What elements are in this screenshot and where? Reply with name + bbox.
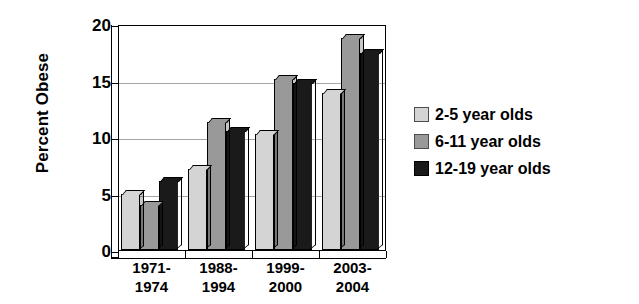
bar-group xyxy=(253,26,320,250)
bars-layer xyxy=(119,26,385,250)
x-tick-mark xyxy=(319,251,320,258)
bar xyxy=(322,93,341,250)
y-axis-title: Percent Obese xyxy=(33,18,53,208)
x-tick-label-line: 2004 xyxy=(311,277,395,296)
x-tick-label-line: 2003- xyxy=(311,258,395,277)
bar-group xyxy=(320,26,387,250)
y-tick-mark xyxy=(112,83,118,84)
obesity-bar-chart: Percent Obese 05101520 1971-19741988-199… xyxy=(0,0,639,304)
y-tick-mark xyxy=(112,26,118,27)
legend-swatch xyxy=(414,107,429,122)
legend-item[interactable]: 12-19 year olds xyxy=(414,155,551,182)
y-tick-label: 10 xyxy=(92,129,111,149)
y-tick-mark xyxy=(112,139,118,140)
bar xyxy=(188,169,207,250)
legend-label: 6-11 year olds xyxy=(435,133,541,151)
legend-swatch xyxy=(414,134,429,149)
legend-item[interactable]: 6-11 year olds xyxy=(414,128,551,155)
plot-area: 05101520 xyxy=(118,25,386,251)
legend-label: 2-5 year olds xyxy=(435,106,533,124)
x-tick-label: 2003-2004 xyxy=(311,258,395,296)
bar xyxy=(255,134,274,250)
legend-item[interactable]: 2-5 year olds xyxy=(414,101,551,128)
y-tick-label: 20 xyxy=(92,16,111,36)
y-tick-label: 15 xyxy=(92,73,111,93)
x-tick-mark xyxy=(252,251,253,258)
bar-group xyxy=(186,26,253,250)
y-tick-label: 5 xyxy=(102,186,111,206)
x-tick-mark xyxy=(185,251,186,258)
x-tick-mark xyxy=(118,251,119,258)
x-tick-mark xyxy=(386,251,387,258)
legend-swatch xyxy=(414,161,429,176)
legend-label: 12-19 year olds xyxy=(435,160,551,178)
bar-group xyxy=(119,26,186,250)
chart-legend: 2-5 year olds6-11 year olds12-19 year ol… xyxy=(414,101,551,182)
y-tick-mark xyxy=(112,196,118,197)
bar xyxy=(121,194,140,251)
